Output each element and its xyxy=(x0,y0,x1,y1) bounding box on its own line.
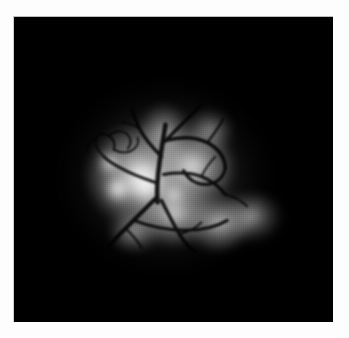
vessel-mid-right-branch xyxy=(164,173,226,194)
vessel-left-branch xyxy=(104,157,156,183)
vessel-capillary-tuft-a xyxy=(95,134,114,157)
figure-page xyxy=(0,0,349,338)
vessel-upper-right-twig xyxy=(207,119,223,143)
vessel-inferior-right-branch xyxy=(162,200,196,252)
vessel-distal-twig-c xyxy=(225,194,247,206)
vessel-right-arcade xyxy=(166,138,226,169)
vessel-inferior-twig-b xyxy=(126,228,142,248)
micrograph-frame xyxy=(13,16,333,322)
vessel-superior-left-branch xyxy=(132,109,162,157)
vessel-main-trunk xyxy=(157,125,165,203)
vessel-capillary-tuft-c xyxy=(114,138,139,153)
vascular-tree-layer xyxy=(14,17,333,322)
vessel-distal-twig-a xyxy=(201,157,215,177)
vessel-inferior-arcade xyxy=(134,220,228,230)
fluorescence-micrograph-image xyxy=(14,17,333,322)
vessel-inferior-left-trunk xyxy=(108,198,156,248)
